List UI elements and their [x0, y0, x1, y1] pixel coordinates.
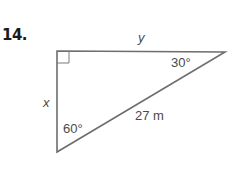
hypotenuse-label: 27 m — [135, 108, 164, 123]
angle-label-30: 30° — [171, 55, 191, 70]
triangle-diagram — [0, 0, 240, 179]
problem-number: 14. — [2, 26, 27, 44]
angle-label-60: 60° — [63, 121, 83, 136]
side-label-y: y — [138, 30, 145, 45]
right-angle-marker — [57, 51, 69, 63]
side-label-x: x — [43, 95, 50, 110]
right-triangle — [57, 51, 225, 152]
figure: 14. y x 30° 60° 27 m — [0, 0, 240, 179]
